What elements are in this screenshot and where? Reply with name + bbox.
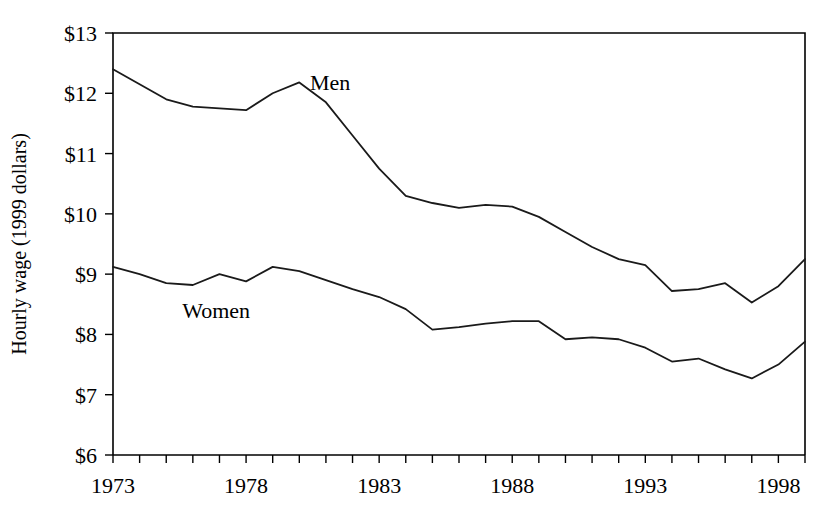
plot-frame (113, 33, 805, 455)
series-label-women: Women (182, 298, 250, 323)
y-tick-label: $10 (64, 202, 97, 227)
y-axis-tick-labels: $6$7$8$9$10$11$12$13 (64, 21, 97, 468)
x-axis-tick-labels: 197319781983198819931998 (91, 473, 800, 498)
data-series-group (113, 69, 805, 378)
chart-canvas: $6$7$8$9$10$11$12$13 1973197819831988199… (0, 0, 826, 527)
x-tick-label: 1988 (490, 473, 534, 498)
series-line-men (113, 69, 805, 302)
wage-trend-chart: $6$7$8$9$10$11$12$13 1973197819831988199… (0, 0, 826, 527)
y-tick-label: $9 (75, 262, 97, 287)
y-axis-tick-marks (105, 33, 113, 455)
y-tick-label: $6 (75, 443, 97, 468)
x-tick-label: 1993 (623, 473, 667, 498)
y-tick-label: $13 (64, 21, 97, 46)
x-axis-tick-marks (113, 455, 805, 463)
y-tick-label: $11 (65, 142, 97, 167)
axis-frame-path (113, 33, 805, 455)
y-tick-label: $8 (75, 322, 97, 347)
y-tick-label: $7 (75, 383, 97, 408)
y-axis-title: Hourly wage (1999 dollars) (8, 133, 31, 355)
y-tick-label: $12 (64, 81, 97, 106)
x-tick-label: 1998 (756, 473, 800, 498)
x-tick-label: 1983 (357, 473, 401, 498)
x-tick-label: 1973 (91, 473, 135, 498)
x-tick-label: 1978 (224, 473, 268, 498)
series-label-men: Men (310, 70, 350, 95)
